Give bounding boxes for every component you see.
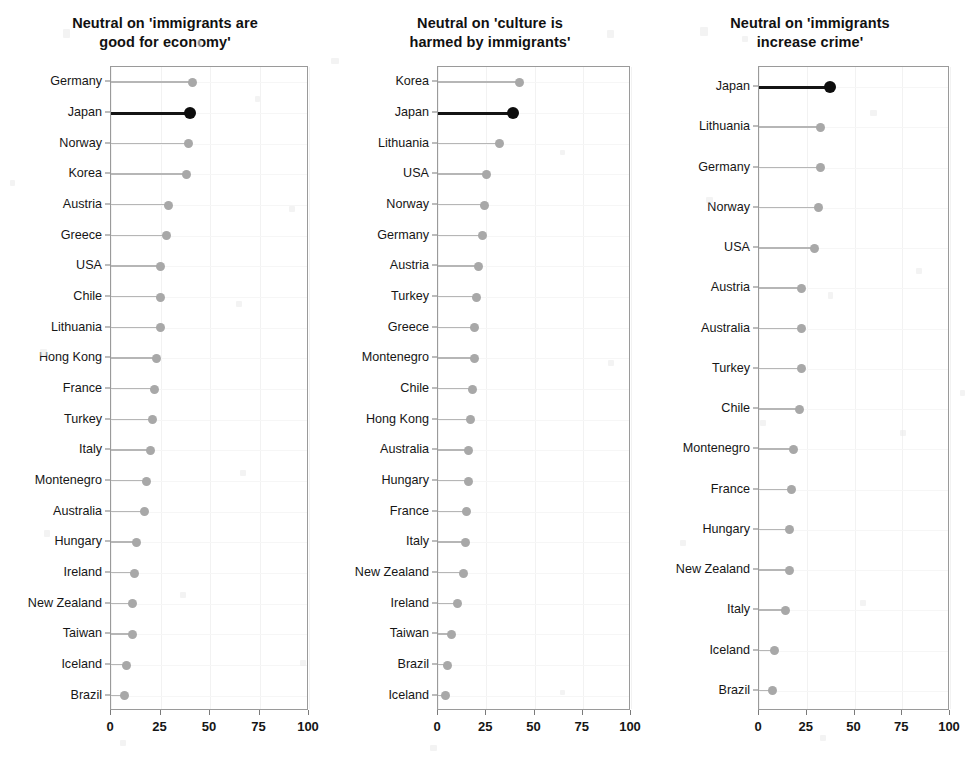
x-axis-tick-label: 50	[202, 719, 216, 734]
lollipop-dot	[164, 201, 173, 210]
y-axis-label-norway: Norway	[386, 197, 435, 211]
y-axis-label-norway: Norway	[707, 200, 756, 214]
lollipop-stem	[111, 81, 192, 82]
lollipop-dot	[785, 566, 794, 575]
lollipop-dot	[120, 691, 129, 700]
panel-title-culture: Neutral on 'culture is harmed by immigra…	[330, 14, 650, 53]
y-axis-label-austria: Austria	[390, 258, 435, 272]
panel-crime: Neutral on 'immigrants increase crime' J…	[650, 0, 970, 764]
y-axis-label-italy: Italy	[727, 602, 756, 616]
lollipop-dot	[474, 262, 483, 271]
x-axis-tick-label: 75	[575, 719, 589, 734]
x-tick-mark	[110, 710, 111, 715]
lollipop-dot	[132, 538, 141, 547]
gridline-vertical	[309, 67, 310, 709]
lollipop-stem	[438, 173, 486, 174]
lollipop-dot	[795, 405, 804, 414]
y-axis-label-iceland: Iceland	[388, 688, 435, 702]
panel-culture: Neutral on 'culture is harmed by immigra…	[330, 0, 650, 764]
lollipop-stem	[759, 287, 801, 288]
lollipop-stem	[759, 328, 801, 329]
lollipop-dot	[156, 262, 165, 271]
lollipop-dot	[156, 293, 165, 302]
lollipop-dot	[142, 477, 151, 486]
y-axis-label-germany: Germany	[50, 74, 108, 88]
lollipop-dot	[816, 163, 825, 172]
gridline-horizontal	[438, 634, 629, 635]
y-axis-label-australia: Australia	[701, 321, 756, 335]
y-axis-label-usa: USA	[724, 240, 756, 254]
plot-area-economy	[110, 66, 308, 710]
lollipop-dot	[188, 78, 197, 87]
x-tick-mark	[160, 710, 161, 715]
lollipop-dot	[466, 415, 475, 424]
lollipop-dot	[140, 507, 149, 516]
lollipop-dot	[515, 78, 524, 87]
lollipop-dot	[150, 385, 159, 394]
y-axis-label-hong-kong: Hong Kong	[366, 412, 435, 426]
x-axis-tick-label: 50	[846, 719, 860, 734]
y-axis-label-hungary: Hungary	[54, 534, 108, 548]
lollipop-dot	[468, 385, 477, 394]
lollipop-stem	[111, 112, 190, 115]
lollipop-stem	[111, 449, 151, 450]
lollipop-dot	[443, 661, 452, 670]
x-axis-tick-label: 75	[894, 719, 908, 734]
panel-economy: Neutral on 'immigrants are good for econ…	[0, 0, 330, 764]
lollipop-dot	[152, 354, 161, 363]
gridline-vertical	[161, 67, 162, 709]
gridline-vertical	[583, 67, 584, 709]
y-axis-label-greece: Greece	[388, 320, 435, 334]
y-axis-label-australia: Australia	[380, 442, 435, 456]
gridline-vertical	[260, 67, 261, 709]
lollipop-dot	[148, 415, 157, 424]
x-tick-mark	[437, 710, 438, 715]
y-axis-label-usa: USA	[403, 166, 435, 180]
lollipop-dot	[464, 446, 473, 455]
lollipop-stem	[759, 167, 820, 168]
x-tick-mark	[806, 710, 807, 715]
y-axis-label-norway: Norway	[59, 136, 108, 150]
y-axis-label-greece: Greece	[61, 228, 108, 242]
y-axis-label-turkey: Turkey	[64, 412, 108, 426]
lollipop-dot	[478, 231, 487, 240]
y-axis-label-taiwan: Taiwan	[390, 626, 435, 640]
y-axis-label-france: France	[390, 504, 435, 518]
lollipop-stem	[759, 126, 820, 127]
y-axis-label-lithuania: Lithuania	[699, 119, 756, 133]
x-axis-tick-label: 25	[799, 719, 813, 734]
y-axis-label-usa: USA	[76, 258, 108, 272]
y-axis-label-korea: Korea	[68, 166, 108, 180]
x-axis-tick-label: 25	[478, 719, 492, 734]
lollipop-dot	[146, 446, 155, 455]
lollipop-stem	[111, 143, 188, 144]
lollipop-dot	[459, 569, 468, 578]
lollipop-stem	[438, 296, 477, 297]
lollipop-dot	[472, 293, 481, 302]
x-tick-mark	[630, 710, 631, 715]
y-axis-label-turkey: Turkey	[391, 289, 435, 303]
lollipop-stem	[438, 235, 482, 236]
x-axis-tick-label: 0	[754, 719, 761, 734]
plot-area-culture	[437, 66, 630, 710]
y-axis-label-brazil: Brazil	[398, 657, 436, 671]
y-axis-label-chile: Chile	[73, 289, 108, 303]
lollipop-dot	[797, 284, 806, 293]
gridline-vertical	[210, 67, 211, 709]
lollipop-stem	[111, 173, 186, 174]
lollipop-dot	[470, 323, 479, 332]
y-axis-label-new-zealand: New Zealand	[28, 596, 108, 610]
lollipop-stem	[759, 86, 830, 89]
y-axis-label-japan: Japan	[395, 105, 435, 119]
y-axis-label-hungary: Hungary	[702, 522, 756, 536]
y-axis-label-italy: Italy	[79, 442, 108, 456]
x-tick-mark	[901, 710, 902, 715]
lollipop-dot	[128, 599, 137, 608]
lollipop-stem	[111, 357, 157, 358]
lollipop-dot	[507, 107, 519, 119]
lollipop-dot	[824, 81, 836, 93]
x-tick-mark	[308, 710, 309, 715]
y-axis-label-brazil: Brazil	[71, 688, 109, 702]
lollipop-dot	[441, 691, 450, 700]
lollipop-dot	[447, 630, 456, 639]
